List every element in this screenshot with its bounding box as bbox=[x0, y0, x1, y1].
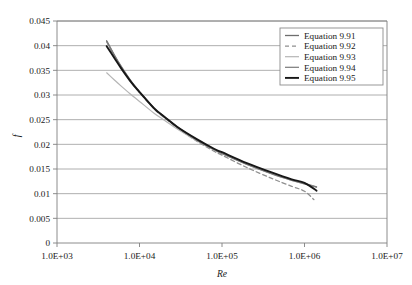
y-tick-label: 0.02 bbox=[34, 140, 50, 150]
legend-label: Equation 9.95 bbox=[304, 73, 356, 83]
y-tick-label: 0.005 bbox=[29, 214, 50, 224]
legend[interactable]: Equation 9.91Equation 9.92Equation 9.93E… bbox=[280, 28, 383, 85]
line-chart: 00.0050.010.0150.020.0250.030.0350.040.0… bbox=[0, 0, 412, 285]
x-axis-title: Re bbox=[216, 268, 228, 279]
legend-label: Equation 9.92 bbox=[304, 41, 356, 51]
y-tick-label: 0.035 bbox=[29, 66, 50, 76]
figure-container: 00.0050.010.0150.020.0250.030.0350.040.0… bbox=[0, 0, 412, 285]
x-tick-label: 1.0E+06 bbox=[289, 251, 321, 261]
x-tick-label: 1.0E+04 bbox=[124, 251, 156, 261]
x-tick-label: 1.0E+03 bbox=[41, 251, 73, 261]
x-tick-label: 1.0E+05 bbox=[206, 251, 238, 261]
legend-label: Equation 9.91 bbox=[304, 31, 356, 41]
y-tick-label: 0.015 bbox=[29, 164, 50, 174]
y-tick-label: 0 bbox=[45, 238, 50, 248]
y-tick-label: 0.045 bbox=[29, 16, 50, 26]
y-tick-label: 0.04 bbox=[34, 41, 50, 51]
legend-label: Equation 9.93 bbox=[304, 52, 356, 62]
x-tick-label: 1.0E+07 bbox=[371, 251, 403, 261]
y-tick-label: 0.01 bbox=[34, 189, 50, 199]
y-tick-label: 0.03 bbox=[34, 90, 50, 100]
y-tick-label: 0.025 bbox=[29, 115, 50, 125]
legend-label: Equation 9.94 bbox=[304, 63, 356, 73]
